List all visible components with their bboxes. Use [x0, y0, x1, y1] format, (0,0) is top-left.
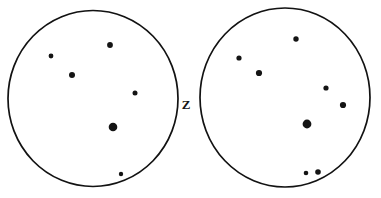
star-dot [119, 172, 123, 176]
star-dot [304, 171, 309, 176]
star-dot [236, 55, 241, 60]
star-dot [340, 102, 346, 108]
star-dot [69, 72, 75, 78]
star-field-figure: Z [0, 0, 381, 198]
star-dot [303, 120, 312, 129]
star-dot [133, 91, 138, 96]
star-dot [256, 70, 262, 76]
star-dot [293, 36, 298, 41]
right-field-outline [200, 8, 370, 187]
star-dot [323, 85, 328, 90]
left-field-outline [8, 11, 178, 187]
z-axis-label: Z [182, 97, 191, 112]
star-dot [49, 54, 54, 59]
star-dot [107, 42, 113, 48]
figure-canvas: Z [0, 0, 381, 198]
star-dot [315, 169, 321, 175]
star-dot [109, 123, 118, 132]
